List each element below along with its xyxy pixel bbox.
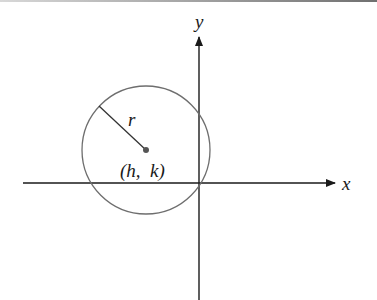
center-label: (h, k) — [120, 160, 165, 182]
x-axis-label: x — [341, 173, 351, 194]
radius-line — [99, 106, 146, 150]
coordinate-diagram: y x r (h, k) — [0, 0, 377, 300]
radius-label: r — [128, 109, 136, 130]
y-axis-label: y — [193, 11, 204, 32]
center-point — [143, 147, 149, 153]
